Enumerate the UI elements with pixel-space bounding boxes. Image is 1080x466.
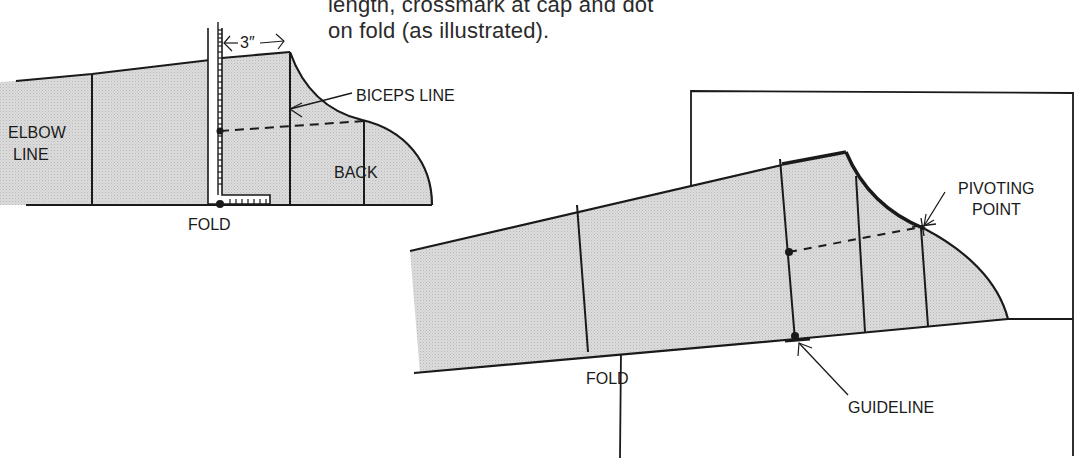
elbow-line-label-2: LINE [13,146,49,163]
guideline-label: GUIDELINE [848,399,934,416]
biceps-line-label: BICEPS LINE [356,87,455,104]
pivoting-point-label-1: PIVOTING [958,180,1034,197]
back-label: BACK [334,164,378,181]
measure-label: 3″ [240,34,255,51]
biceps-dot [217,128,224,135]
pivoting-point-label-2: POINT [972,201,1021,218]
left-sleeve-diagram: 3″ BICEPS LINE ELBOW LINE BACK FOLD [0,22,455,233]
sleeve-pattern-illustration: 3″ BICEPS LINE ELBOW LINE BACK FOLD [0,0,1080,466]
fold-dot [216,200,224,208]
right-sleeve-shape [410,152,1008,373]
left-fold-label: FOLD [188,216,231,233]
right-sleeve-diagram: PIVOTING POINT GUIDELINE FOLD [410,91,1073,458]
elbow-line-label-1: ELBOW [8,124,67,141]
right-fold-label: FOLD [586,370,629,387]
